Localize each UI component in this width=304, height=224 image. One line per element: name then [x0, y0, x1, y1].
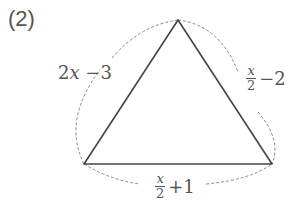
problem-number: (2) — [8, 6, 35, 32]
bottom-side-label: x 2 +1 — [155, 172, 195, 201]
right-numerator: x — [246, 64, 255, 79]
bottom-rest: +1 — [168, 176, 195, 197]
triangle-figure — [0, 0, 304, 224]
left-coef: 2 — [58, 62, 69, 83]
right-side-label: x 2 −2 — [246, 64, 286, 93]
right-denominator: 2 — [246, 79, 256, 93]
left-var: x — [69, 62, 79, 83]
bottom-denominator: 2 — [155, 187, 165, 201]
triangle — [84, 20, 272, 164]
right-rest: −2 — [259, 68, 286, 89]
left-side-label: 2x −3 — [58, 62, 112, 83]
left-rest: −3 — [80, 62, 112, 83]
right-fraction: x 2 — [246, 64, 256, 93]
bottom-fraction: x 2 — [155, 172, 165, 201]
left-side-arc — [76, 20, 178, 164]
bottom-numerator: x — [155, 172, 164, 187]
